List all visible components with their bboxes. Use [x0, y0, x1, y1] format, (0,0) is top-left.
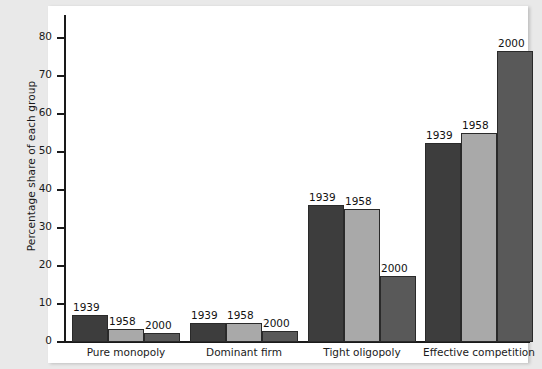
bar-chart-figure: Percentage share of each group 807060504… [0, 0, 542, 369]
bar [262, 331, 298, 342]
bar-label: 2000 [498, 37, 525, 49]
bar-label: 1958 [345, 195, 372, 207]
y-axis-tick-mark [57, 113, 65, 115]
bar-label: 1939 [73, 301, 100, 313]
bar [190, 323, 226, 342]
y-axis-tick-label: 50 [22, 144, 52, 156]
y-axis-tick-label: 30 [22, 220, 52, 232]
y-axis-tick-mark [57, 265, 65, 267]
bar-label: 1939 [426, 129, 453, 141]
bar [72, 315, 108, 342]
bar [308, 205, 344, 342]
bar [144, 333, 180, 343]
y-axis-line [64, 15, 66, 342]
y-axis-tick-mark [57, 303, 65, 305]
y-axis-tick-mark [57, 189, 65, 191]
y-axis-label: Percentage share of each group [25, 46, 37, 286]
y-axis-tick-label: 10 [22, 296, 52, 308]
bar-label: 1939 [191, 309, 218, 321]
y-axis-tick-label: 0 [22, 334, 52, 346]
y-axis-tick-label: 60 [22, 106, 52, 118]
bar-label: 1958 [109, 315, 136, 327]
bar-label: 1958 [227, 309, 254, 321]
bar-label: 2000 [263, 317, 290, 329]
x-axis-category-label: Effective competition [403, 346, 542, 358]
bar [461, 133, 497, 342]
bar-label: 1958 [462, 119, 489, 131]
y-axis-tick-mark [57, 37, 65, 39]
y-axis-tick-label: 80 [22, 30, 52, 42]
y-axis-tick-mark [57, 151, 65, 153]
bar [380, 276, 416, 343]
bar-label: 2000 [145, 319, 172, 331]
bar [425, 143, 461, 343]
bar-label: 2000 [381, 262, 408, 274]
y-axis-tick-mark [57, 341, 65, 343]
bar-label: 1939 [309, 191, 336, 203]
bar [344, 209, 380, 342]
y-axis-tick-label: 20 [22, 258, 52, 270]
bar [226, 323, 262, 342]
y-axis-tick-mark [57, 75, 65, 77]
y-axis-tick-label: 70 [22, 68, 52, 80]
y-axis-tick-label: 40 [22, 182, 52, 194]
y-axis-tick-mark [57, 227, 65, 229]
bar [108, 329, 144, 342]
bar [497, 51, 533, 342]
